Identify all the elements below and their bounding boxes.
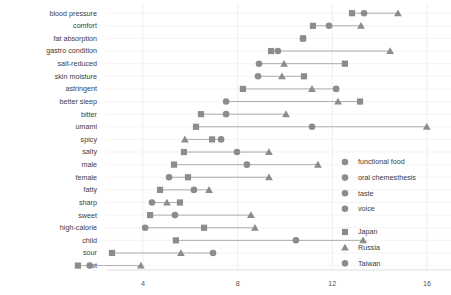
data-point-taiwan (326, 23, 333, 30)
category-label: comfort (73, 21, 97, 30)
data-point-japan (181, 149, 187, 155)
data-point-taiwan (172, 212, 179, 219)
category-label: better sleep (59, 97, 97, 106)
category-label: sharp (79, 198, 97, 207)
data-point-taiwan (300, 35, 307, 42)
data-point-russia (177, 249, 185, 256)
legend-label-japan: Japan (358, 227, 378, 236)
data-point-taiwan (256, 60, 263, 67)
data-point-taiwan (86, 262, 93, 269)
category-label: skin moisture (55, 72, 97, 81)
data-point-japan (109, 250, 115, 256)
legend-label-taiwan: Taiwan (358, 259, 380, 268)
data-point-japan (185, 174, 191, 180)
data-point-japan (171, 162, 177, 168)
category-label: salty (82, 147, 97, 156)
legend-countries: JapanRussiaTaiwan (341, 227, 380, 267)
data-point-japan (357, 98, 363, 104)
legend-label-group: oral chemesthesis (358, 173, 416, 182)
legend-marker-group (342, 159, 349, 166)
data-point-taiwan (149, 199, 156, 206)
x-tick-label: 4 (141, 279, 145, 288)
data-point-japan (147, 212, 153, 218)
category-label: gastro condition (46, 46, 97, 55)
data-point-taiwan (293, 237, 300, 244)
data-point-japan (209, 136, 215, 142)
x-axis-tick-labels: 481216 (141, 279, 431, 288)
category-label: fatty (83, 185, 97, 194)
category-label: high-calorie (60, 223, 97, 232)
category-label: spicy (81, 135, 98, 144)
category-label: sour (83, 248, 98, 257)
data-point-japan (342, 61, 348, 67)
category-label: female (75, 173, 97, 182)
data-point-taiwan (255, 73, 262, 80)
category-label: fat absorption (53, 34, 97, 43)
data-point-taiwan (223, 98, 230, 105)
data-point-japan (268, 48, 274, 54)
category-label: umami (75, 122, 97, 131)
category-label: sweet (78, 211, 97, 220)
category-axis-labels: blood pressurecomfortfat absorptiongastr… (46, 9, 97, 270)
chart-canvas: blood pressurecomfortfat absorptiongastr… (0, 0, 451, 295)
data-point-japan (349, 10, 355, 16)
x-tick-label: 8 (236, 279, 240, 288)
category-label: salt-reduced (57, 59, 97, 68)
legend-marker-russia (341, 244, 349, 251)
x-tick-label: 16 (423, 279, 431, 288)
data-point-japan (201, 225, 207, 231)
category-label: male (81, 160, 97, 169)
data-point-taiwan (309, 123, 316, 130)
data-point-japan (193, 124, 199, 130)
data-point-taiwan (361, 10, 368, 17)
legend-label-group: functional food (358, 157, 405, 166)
legend-marker-group (342, 174, 349, 181)
legend-label-russia: Russia (358, 243, 380, 252)
data-point-japan (75, 263, 81, 269)
data-point-taiwan (191, 187, 198, 194)
data-point-taiwan (223, 111, 230, 118)
data-point-taiwan (142, 224, 149, 231)
data-point-japan (301, 73, 307, 79)
data-point-japan (310, 23, 316, 29)
legend-label-group: taste (358, 189, 374, 198)
data-point-russia (314, 161, 322, 168)
legend-marker-japan (342, 229, 348, 235)
data-point-japan (177, 199, 183, 205)
legend-marker-group (342, 190, 349, 197)
legend-category-groups: functional foodoral chemesthesistastevoi… (342, 157, 417, 213)
data-point-taiwan (218, 136, 225, 143)
x-tick-label: 12 (328, 279, 336, 288)
legend-label-group: voice (358, 204, 375, 213)
data-point-russia (265, 148, 273, 155)
data-point-taiwan (244, 161, 251, 168)
category-label: bitter (81, 110, 98, 119)
category-label: blood pressure (49, 9, 97, 18)
legend-marker-taiwan (342, 260, 349, 267)
data-point-taiwan (275, 48, 282, 55)
legend-marker-group (342, 206, 349, 213)
dot-plot-chart: blood pressurecomfortfat absorptiongastr… (0, 0, 451, 295)
data-point-taiwan (333, 86, 340, 93)
data-point-taiwan (234, 149, 241, 156)
data-point-japan (173, 237, 179, 243)
data-point-russia (251, 224, 259, 231)
category-label: child (82, 236, 97, 245)
data-point-japan (157, 187, 163, 193)
data-point-japan (198, 111, 204, 117)
data-point-taiwan (210, 250, 217, 257)
data-point-japan (240, 86, 246, 92)
data-point-taiwan (166, 174, 173, 181)
category-label: astringent (65, 84, 97, 93)
